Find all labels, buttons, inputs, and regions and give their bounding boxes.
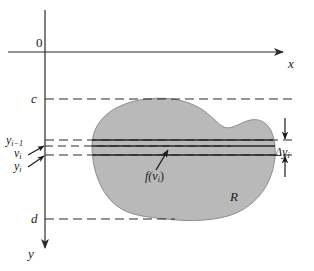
c-label: c (31, 92, 37, 105)
region-label: R (230, 190, 238, 203)
diagram-svg (0, 0, 314, 271)
x-axis-label: x (288, 57, 294, 70)
v-i-leader-arrow (28, 146, 44, 155)
f-of-v-i-suffix: ) (160, 169, 164, 183)
delta-y-i-label: Δyi (275, 146, 290, 160)
y-i-label: yi (14, 160, 22, 174)
d-label: d (31, 212, 38, 225)
delta-y-i-subscript: i (287, 151, 289, 160)
y-i-subscript: i (19, 165, 21, 174)
y-i-leader-arrow (28, 156, 44, 167)
delta-y-i-base: Δy (275, 145, 287, 159)
region-R-fill (92, 98, 275, 220)
figure-canvas: 0 x y c d yi−1 vi yi Δyi f(vi) R (0, 0, 314, 271)
origin-label: 0 (36, 36, 43, 49)
y-axis-label: y (28, 247, 34, 260)
f-of-v-i-label: f(vi) (145, 170, 164, 184)
f-of-v-i-prefix: f(v (145, 169, 158, 183)
region-R-shape (92, 98, 275, 220)
